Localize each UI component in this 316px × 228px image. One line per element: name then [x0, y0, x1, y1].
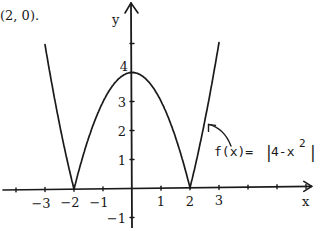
x-tick-label: −2: [60, 195, 79, 210]
y-axis-label: y: [111, 12, 120, 27]
x-tick-label: −3: [31, 196, 50, 211]
ticks: [16, 44, 306, 218]
x-tick-label: −1: [89, 195, 108, 210]
y-tick-label: 3: [118, 95, 126, 110]
caption-fragment: (2, 0).: [0, 8, 39, 23]
curve-left-branch: [45, 45, 74, 190]
function-label-body: 4-x: [271, 144, 295, 159]
function-label-prefix: f(x)=: [214, 144, 253, 159]
y-tick-label: −1: [107, 211, 126, 226]
function-label-abs-close: |: [310, 142, 316, 162]
y-tick-label: 1: [118, 153, 126, 168]
y-tick-label: 4: [120, 59, 128, 74]
function-label-exponent: 2: [299, 137, 306, 150]
y-axis-line: [131, 3, 132, 228]
x-tick-label: 2: [186, 194, 194, 209]
x-axis-label: x: [302, 194, 310, 209]
annotation-arrowhead: [209, 124, 216, 131]
y-tick-label: 2: [118, 124, 126, 139]
curve-right-branch: [190, 43, 219, 188]
tick-labels: −3−2−11234321−1: [31, 59, 223, 226]
annotation-arrow: [209, 124, 232, 146]
x-tick-label: 1: [157, 194, 165, 209]
function-graph: (2, 0). −3−2−11234321−1 y x f(x)= | 4-x …: [0, 0, 316, 228]
x-axis-line: [3, 186, 312, 190]
x-tick-label: 3: [215, 193, 223, 208]
